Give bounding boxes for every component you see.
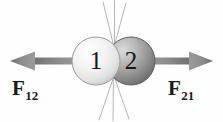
force-symbol-f12: F (12, 76, 25, 100)
force-label-f21: F21 (168, 78, 194, 102)
ball-1-label: 1 (82, 48, 110, 73)
ball-2-label: 2 (117, 48, 145, 73)
force-subscript-f21: 21 (181, 88, 194, 103)
impact-line-lower-center (113, 76, 114, 121)
force-label-f12: F12 (12, 78, 38, 102)
arrow-head-f12 (10, 52, 35, 71)
arrow-head-f21 (189, 52, 213, 71)
figure-canvas (0, 0, 223, 122)
force-symbol-f21: F (168, 76, 181, 100)
physics-figure-newtons-third-law: 1 2 F12 F21 (0, 0, 223, 122)
force-subscript-f12: 12 (25, 88, 38, 103)
